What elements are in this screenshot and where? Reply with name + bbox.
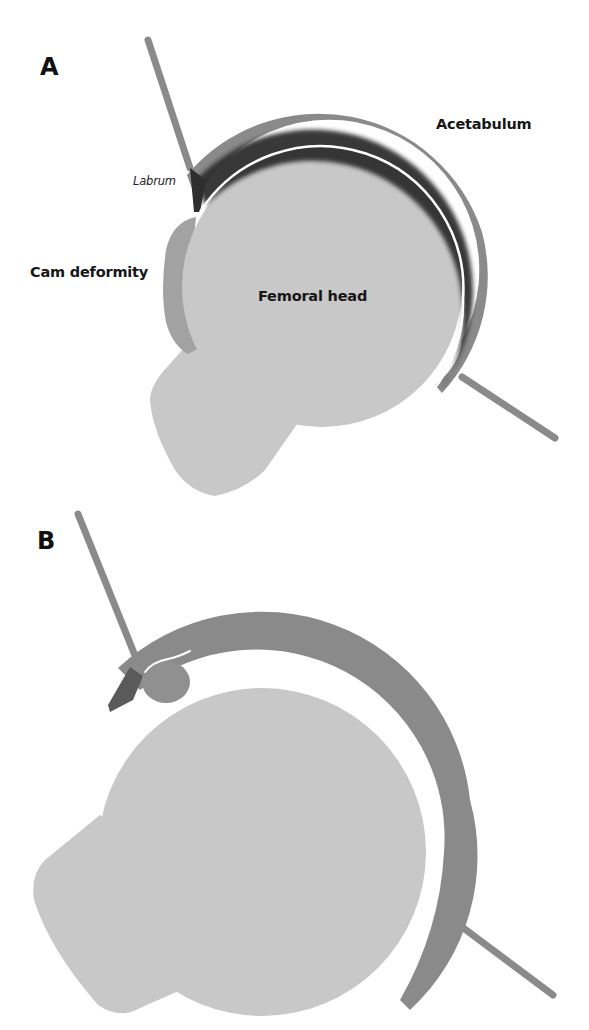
panel-a-top-spoke (148, 40, 190, 168)
panel-b-top-spoke (78, 514, 140, 668)
label-labrum: Labrum (133, 176, 176, 188)
panel-b-bottom-spoke (450, 918, 553, 995)
panel-a-letter: A (40, 55, 59, 79)
label-femoral-head: Femoral head (258, 289, 367, 304)
panel-b-letter: B (37, 529, 55, 553)
label-cam-deformity: Cam deformity (30, 265, 148, 280)
hip-fai-diagram: A B Acetabulum Labrum Cam deformity Femo… (0, 0, 589, 1030)
panel-a-bottom-spoke (462, 377, 555, 438)
panel-a (148, 40, 555, 496)
diagram-canvas (0, 0, 589, 1030)
panel-b-femoral-head (98, 688, 426, 1016)
panel-b (33, 514, 553, 1016)
label-acetabulum: Acetabulum (436, 117, 531, 132)
